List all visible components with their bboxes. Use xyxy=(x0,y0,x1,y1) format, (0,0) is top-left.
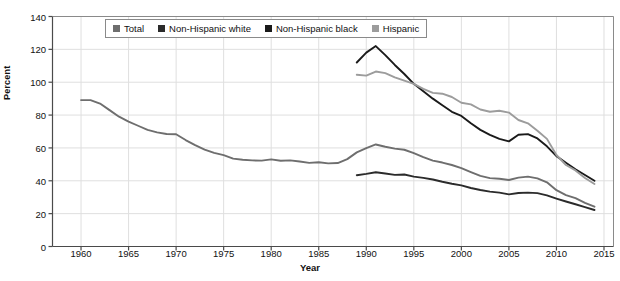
x-tick-label: 1965 xyxy=(118,248,139,259)
x-tick-label: 1960 xyxy=(70,248,91,259)
x-tick-label: 2005 xyxy=(498,248,519,259)
x-tick-label: 2010 xyxy=(546,248,567,259)
legend-item[interactable]: Non-Hispanic white xyxy=(158,23,251,34)
line-chart: 020406080100120140 196019651970197519801… xyxy=(0,0,620,281)
x-tick-label: 2000 xyxy=(451,248,472,259)
x-tick-label: 1995 xyxy=(403,248,424,259)
legend-label: Non-Hispanic black xyxy=(276,23,358,34)
x-axis-tick-labels: 1960196519701975198019851990199520002005… xyxy=(0,0,620,281)
legend-label: Non-Hispanic white xyxy=(169,23,251,34)
legend-swatch-icon xyxy=(113,25,120,32)
y-axis-title: Percent xyxy=(2,66,12,100)
x-axis-title: Year xyxy=(0,262,620,273)
legend-swatch-icon xyxy=(265,25,272,32)
legend-item[interactable]: Hispanic xyxy=(372,23,419,34)
legend-item[interactable]: Total xyxy=(113,23,144,34)
legend-item[interactable]: Non-Hispanic black xyxy=(265,23,358,34)
chart-legend: TotalNon-Hispanic whiteNon-Hispanic blac… xyxy=(105,19,427,38)
legend-swatch-icon xyxy=(158,25,165,32)
x-tick-label: 2015 xyxy=(593,248,614,259)
x-tick-label: 1985 xyxy=(308,248,329,259)
legend-label: Total xyxy=(124,23,144,34)
legend-label: Hispanic xyxy=(383,23,419,34)
x-tick-label: 1975 xyxy=(213,248,234,259)
x-tick-label: 1980 xyxy=(261,248,282,259)
x-tick-label: 1990 xyxy=(356,248,377,259)
legend-swatch-icon xyxy=(372,25,379,32)
x-tick-label: 1970 xyxy=(166,248,187,259)
